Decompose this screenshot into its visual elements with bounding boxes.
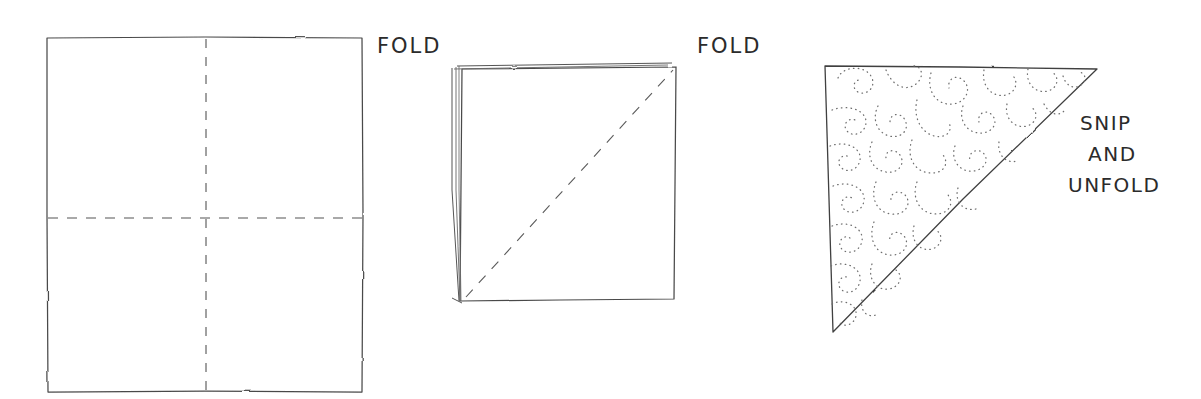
figure-snipped-triangle: [825, 66, 1097, 332]
hand-drawn-figures: [0, 0, 1201, 399]
snip-and-unfold-label: SNIP AND UNFOLD: [1080, 108, 1198, 201]
triangle-outline: [825, 66, 1097, 332]
fold-label-step-1: FOLD: [377, 34, 441, 58]
snip-label-line-3: UNFOLD: [1068, 170, 1198, 201]
figure-folded-square: [452, 63, 676, 303]
snip-label-line-2: AND: [1088, 139, 1198, 170]
snip-label-line-1: SNIP: [1080, 108, 1198, 139]
figure-flat-square: [47, 37, 363, 392]
square-outline: [47, 37, 363, 392]
figure-flat-square-creases: [48, 39, 362, 391]
layer-edge-left-1: [452, 68, 459, 301]
folded-square-face: [460, 67, 676, 301]
snip-hook-28: [862, 300, 876, 316]
diagram-canvas: FOLD FOLD SNIP AND UNFOLD: [0, 0, 1201, 399]
fold-label-step-2: FOLD: [697, 34, 761, 58]
